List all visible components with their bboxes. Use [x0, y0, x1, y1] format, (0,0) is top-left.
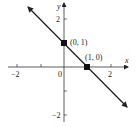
- y-axis-label: y: [56, 2, 61, 11]
- x-axis-label: x: [124, 56, 129, 65]
- point-0-1: [61, 40, 67, 46]
- line-y-equals-1-minus-x: [28, 7, 76, 55]
- y-tick-label-neg2: −2: [52, 111, 61, 120]
- point-1-0: [84, 64, 90, 70]
- x-tick-label-0: 0: [58, 70, 62, 79]
- x-tick-label-neg2: −2: [11, 70, 20, 79]
- line-y-equals-1-minus-x-lower: [76, 55, 128, 107]
- x-tick-label-2: 2: [108, 70, 112, 79]
- point-label-0-1: (0, 1): [70, 38, 88, 47]
- chart-canvas: −2 0 2 2 −2 x y (0, 1) (1, 0): [0, 0, 137, 127]
- point-label-1-0: (1, 0): [85, 53, 103, 62]
- y-tick-label-2: 2: [56, 15, 60, 24]
